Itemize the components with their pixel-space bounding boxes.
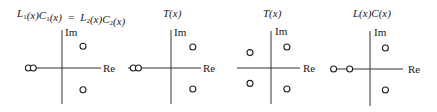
pole-zero-marker (190, 86, 196, 92)
title-text: T(x) (163, 7, 182, 20)
title-text: T(x) (263, 7, 282, 20)
panel-equivalent-loops: L1(x)C1(x) = L2(x)C2(x) Im Re (16, 7, 126, 104)
re-axis-label: Re (303, 62, 315, 74)
im-axis-label: Im (174, 26, 187, 38)
pole-zero-marker (30, 65, 36, 71)
panel-title: L1(x)C1(x) = L2(x)C2(x) (16, 7, 126, 28)
pole-zero-marker (382, 87, 388, 93)
title-text: (x) (113, 15, 126, 28)
pole-zero-diagram: L1(x)C1(x) = L2(x)C2(x) Im Re T(x) Im Re… (0, 0, 437, 112)
pole-zero-marker (382, 45, 388, 51)
title-text: L (16, 7, 23, 19)
pole-zero-marker (284, 86, 290, 92)
im-axis-label: Im (374, 26, 387, 38)
panel-title: T(x) (163, 7, 182, 20)
im-axis-label: Im (65, 26, 78, 38)
pole-zero-marker (247, 80, 253, 86)
pole-zero-marker (135, 65, 141, 71)
re-axis-label: Re (103, 62, 115, 74)
pole-zero-marker (80, 87, 86, 93)
panel-t-first: T(x) Im Re (128, 7, 215, 104)
pole-zero-marker (347, 66, 353, 72)
re-axis-label: Re (408, 63, 420, 75)
pole-zero-marker (247, 50, 253, 56)
panel-title: L(x)C(x) (352, 7, 391, 20)
panel-lc-product: L(x)C(x) Im Re (331, 7, 421, 106)
pole-zero-marker (190, 44, 196, 50)
im-axis-label: Im (275, 25, 288, 37)
title-text: (x) = L (50, 11, 87, 24)
title-text: (x)C (27, 9, 47, 22)
pole-zero-marker (331, 66, 337, 72)
panel-title: T(x) (263, 7, 282, 20)
re-axis-label: Re (203, 62, 215, 74)
pole-zero-marker (284, 44, 290, 50)
pole-zero-marker (80, 43, 86, 49)
title-text: L(x)C(x) (352, 7, 391, 20)
panel-t-second: T(x) Im Re (237, 7, 315, 104)
title-text: (x)C (90, 13, 110, 26)
